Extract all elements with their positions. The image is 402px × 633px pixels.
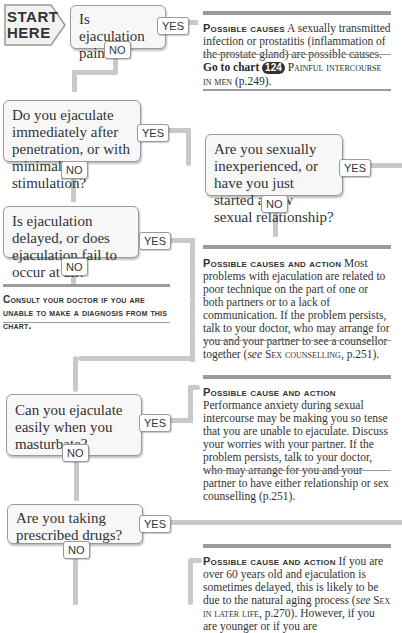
see-ref: see — [247, 348, 262, 360]
connector-q5-yes-v — [188, 385, 193, 423]
start-here-label: START HERE — [7, 9, 58, 41]
connector-q2-yes-v — [186, 128, 191, 166]
connector-q1-no-v — [72, 70, 77, 92]
goto-chart-page: (p.249). — [235, 75, 271, 87]
outcome-possible-cause-4: Possible cause and action If you are ove… — [203, 544, 391, 633]
yes-button-q2[interactable]: YES — [137, 124, 169, 142]
divider — [203, 89, 391, 91]
no-button-q5[interactable]: NO — [62, 444, 89, 462]
yes-button-q1[interactable]: YES — [157, 17, 189, 35]
connector-q4-yes-v3 — [73, 356, 78, 392]
question-q4[interactable]: Is ejaculation delayed, or does ejaculat… — [3, 206, 139, 258]
start-line2: HERE — [7, 25, 58, 41]
connector-o4-h — [188, 558, 202, 563]
outcome-4-heading: Possible cause and action — [203, 555, 336, 567]
connector-q5-yes-h — [188, 385, 200, 390]
outcome-1-heading: Possible causes — [203, 22, 285, 34]
outcome-2-heading: Possible causes and action — [203, 257, 341, 269]
yes-button-q4[interactable]: YES — [139, 232, 171, 250]
question-q3[interactable]: Are you sexually inexperienced, or have … — [205, 134, 343, 196]
no-button-q4[interactable]: NO — [61, 258, 88, 276]
divider — [3, 322, 170, 323]
no-button-q2[interactable]: NO — [61, 161, 88, 179]
ref-page: , p.270). — [259, 607, 297, 619]
connector-o4-up — [188, 560, 193, 605]
outcome-possible-causes-2: Possible causes and action Most problems… — [203, 245, 391, 361]
divider — [203, 470, 391, 471]
goto-chart-link[interactable]: Go to chart 124 Painful intercourse in m… — [203, 60, 391, 88]
yes-button-q6[interactable]: YES — [139, 515, 171, 533]
sex-counselling-ref[interactable]: Sex counselling — [265, 348, 341, 360]
connector-q6-yes — [164, 520, 402, 525]
yes-button-q5[interactable]: YES — [139, 414, 171, 432]
divider — [203, 340, 391, 341]
outcome-3-heading: Possible cause and action — [203, 386, 336, 398]
see-ref: see — [356, 594, 371, 606]
connector-q4-yes-h — [78, 356, 195, 361]
question-q2[interactable]: Do you ejaculate immediately after penet… — [3, 100, 141, 162]
outcome-possible-cause-3: Possible cause and action Performance an… — [203, 375, 391, 503]
no-button-q1[interactable]: NO — [104, 41, 131, 59]
outcome-2-body: Most problems with ejaculation are relat… — [203, 257, 390, 360]
goto-prefix: Go to chart — [203, 61, 259, 73]
question-q6[interactable]: Are you taking prescribed drugs? — [7, 504, 143, 544]
connector-q4-yes-v2 — [190, 300, 195, 362]
yes-button-q3[interactable]: YES — [339, 159, 371, 177]
connector-q5-no — [74, 456, 79, 501]
divider — [203, 54, 391, 55]
connector-q1-no-h — [72, 70, 118, 75]
connector-q4-yes-v — [190, 238, 195, 300]
question-q6-text: Are you taking prescribed drugs? — [16, 510, 122, 543]
no-button-q6[interactable]: NO — [63, 541, 90, 559]
start-here-marker: START HERE — [3, 3, 63, 45]
no-button-q3[interactable]: NO — [261, 195, 288, 213]
ref-page: , p.251). — [341, 348, 379, 360]
consult-doctor-note: Consult your doctor if you are unable to… — [3, 284, 170, 332]
chart-number-badge: 124 — [262, 62, 285, 74]
outcome-3-body: Performance anxiety during sexual interc… — [203, 399, 389, 502]
consult-text: Consult your doctor if you are unable to… — [3, 294, 167, 331]
start-line1: START — [7, 9, 58, 25]
